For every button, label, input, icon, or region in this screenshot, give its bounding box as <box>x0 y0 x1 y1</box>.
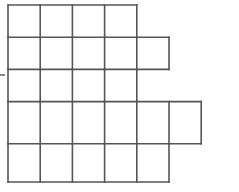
grid-figure <box>0 0 239 192</box>
irregular-grid-drawing <box>0 0 239 192</box>
figure-background <box>0 0 239 192</box>
